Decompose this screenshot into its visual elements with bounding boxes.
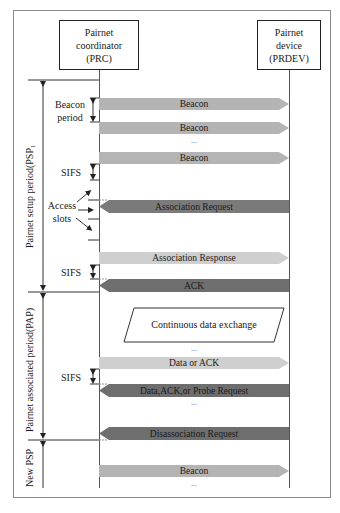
beacon-period-line1: Beacon xyxy=(55,99,85,110)
message-ack: ACK xyxy=(99,279,289,292)
message-beacon-new-psp: Beacon xyxy=(99,465,289,477)
new-psp-label: New PSP xyxy=(24,449,35,487)
pap-label: Pairnet associated period(PAP) xyxy=(24,308,35,432)
message-association-request: Association Request xyxy=(99,200,289,213)
access-slots-line1: Access xyxy=(48,200,76,211)
sifs-label-1: SIFS xyxy=(56,166,86,179)
message-label: Beacon xyxy=(180,123,209,133)
beacon-period-label: Beacon period xyxy=(50,98,90,124)
message-label: Data or ACK xyxy=(169,358,219,368)
message-label: Beacon xyxy=(180,466,209,476)
message-label: Beacon xyxy=(180,99,209,109)
message-label: Disassociation Request xyxy=(150,429,238,439)
message-label: Association Request xyxy=(155,202,233,212)
beacon-period-line2: period xyxy=(57,112,83,123)
message-label: Association Response xyxy=(152,253,236,263)
message-disassociation-request: Disassociation Request xyxy=(99,427,289,440)
message-beacon-2: Beacon xyxy=(99,122,289,134)
message-label: Beacon xyxy=(180,153,209,163)
ellipsis-2: ... xyxy=(99,344,289,353)
access-slots-line2: slots xyxy=(53,213,71,224)
sifs-label-3: SIFS xyxy=(56,371,86,384)
continuous-data-exchange: Continuous data exchange xyxy=(124,318,284,331)
message-beacon-3: Beacon xyxy=(99,152,289,164)
message-label: Data,ACK,or Probe Request xyxy=(140,386,248,396)
access-slots-label: Access slots xyxy=(44,199,80,225)
ellipsis-4: ... xyxy=(99,479,289,488)
message-label: ACK xyxy=(184,281,204,291)
message-beacon-1: Beacon xyxy=(99,98,289,110)
message-data-or-ack: Data or ACK xyxy=(99,357,289,369)
ellipsis-1: ... xyxy=(99,136,289,145)
message-association-response: Association Response xyxy=(99,252,289,264)
ellipsis-3: ... xyxy=(99,398,289,407)
sifs-label-2: SIFS xyxy=(56,266,86,279)
message-data-ack-probe-request: Data,ACK,or Probe Request xyxy=(99,384,289,397)
psp-label: Pairnet setup period(PSP₁ xyxy=(24,145,35,248)
